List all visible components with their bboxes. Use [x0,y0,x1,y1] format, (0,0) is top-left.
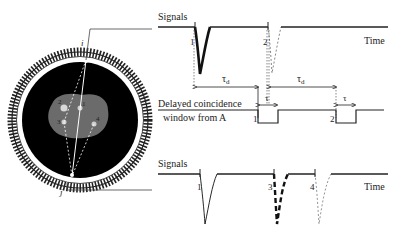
bottom-signal-trace: Signals 1 3 4 Time [158,158,388,224]
window-width-label-1: τ [265,93,269,103]
patient-body: 2 1 3 4 [48,94,108,139]
bottom-signals-title: Signals [158,158,188,169]
source-label-3: 3 [57,118,61,126]
window-label-line1: Delayed coincidence [158,98,242,109]
bottom-pulse-label-4: 4 [310,182,315,192]
detector-i-label: i [81,38,84,48]
delay-label-2: τd [297,73,305,86]
source-label-2: 2 [58,98,62,106]
top-signals-title: Signals [158,11,188,22]
diagram-canvas: 2 1 3 4 i j Signals 1 2 Time τd [0,0,405,235]
delay-label-1: τd [222,73,230,86]
bottom-pulse-label-1: 1 [197,182,202,192]
delayed-window-trace: Delayed coincidence window from A 1 2 τ … [158,93,384,124]
detector-j-label: j [59,187,63,197]
top-signal-trace: Signals 1 2 Time [158,11,388,105]
source-label-1: 1 [82,100,86,108]
window-label-1: 1 [253,114,258,124]
top-time-label: Time [364,35,385,46]
window-width-label-2: τ [343,93,347,103]
bottom-pulse-label-3: 3 [268,182,273,192]
figure: 2 1 3 4 i j Signals 1 2 Time τd [0,0,405,235]
source-label-4: 4 [96,115,100,123]
window-label-2: 2 [330,114,335,124]
window-label-line2: window from A [163,112,227,123]
bottom-time-label: Time [364,181,385,192]
